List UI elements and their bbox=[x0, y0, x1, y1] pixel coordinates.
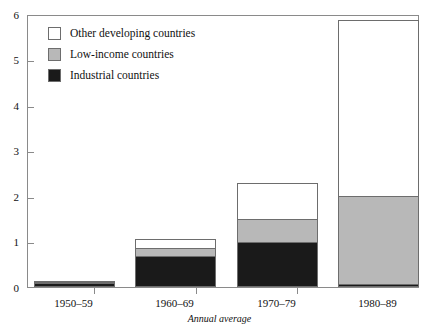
legend: Other developing countries Low-income co… bbox=[48, 23, 238, 86]
legend-item-low-income[interactable]: Low-income countries bbox=[48, 44, 238, 65]
bar-segment-other-developing-1950-59[interactable] bbox=[34, 281, 115, 282]
legend-swatch-other-developing-icon bbox=[48, 27, 61, 40]
legend-label-other-developing: Other developing countries bbox=[70, 27, 195, 40]
x-axis-tick-3 bbox=[297, 288, 298, 294]
bar-segment-other-developing-1980-89[interactable] bbox=[338, 20, 419, 196]
bar-segment-low-income-1950-59[interactable] bbox=[34, 282, 115, 283]
stacked-bar-chart: 6 5 4 3 2 1 0 bbox=[0, 0, 439, 329]
x-tick-label-1970-79: 1970–79 bbox=[236, 297, 317, 309]
bar-segment-industrial-1950-59[interactable] bbox=[34, 283, 115, 287]
x-tick-label-1950-59: 1950–59 bbox=[33, 297, 114, 309]
legend-label-industrial: Industrial countries bbox=[70, 69, 159, 82]
bar-1970-79[interactable] bbox=[237, 183, 318, 287]
bar-1950-59[interactable] bbox=[34, 282, 115, 287]
clipped-caption-fragment bbox=[36, 0, 106, 5]
x-axis-title: Annual average bbox=[0, 313, 439, 324]
bar-segment-industrial-1970-79[interactable] bbox=[237, 242, 318, 287]
bar-segment-industrial-1960-69[interactable] bbox=[135, 256, 216, 287]
bar-segment-low-income-1970-79[interactable] bbox=[237, 219, 318, 242]
y-tick-label-0: 0 bbox=[14, 283, 20, 294]
bar-1960-69[interactable] bbox=[135, 239, 216, 287]
legend-item-other-developing[interactable]: Other developing countries bbox=[48, 23, 238, 44]
bar-segment-other-developing-1960-69[interactable] bbox=[135, 239, 216, 248]
y-tick-label-5: 5 bbox=[14, 55, 20, 66]
y-tick-label-2: 2 bbox=[14, 192, 20, 203]
x-axis-tick-1 bbox=[94, 288, 95, 294]
bar-segment-low-income-1960-69[interactable] bbox=[135, 248, 216, 256]
y-tick-label-3: 3 bbox=[14, 146, 20, 157]
bar-1980-89[interactable] bbox=[338, 20, 419, 287]
bar-segment-industrial-1980-89[interactable] bbox=[338, 284, 419, 287]
y-tick-label-4: 4 bbox=[14, 101, 20, 112]
legend-item-industrial[interactable]: Industrial countries bbox=[48, 65, 238, 86]
x-axis-tick-2 bbox=[196, 288, 197, 294]
legend-swatch-industrial-icon bbox=[48, 69, 61, 82]
y-tick-label-6: 6 bbox=[14, 10, 20, 21]
x-tick-label-1980-89: 1980–89 bbox=[337, 297, 418, 309]
y-axis: 6 5 4 3 2 1 0 bbox=[0, 0, 27, 329]
legend-swatch-low-income-icon bbox=[48, 48, 61, 61]
y-tick-label-1: 1 bbox=[14, 237, 20, 248]
bar-segment-low-income-1980-89[interactable] bbox=[338, 196, 419, 284]
bar-segment-other-developing-1970-79[interactable] bbox=[237, 183, 318, 219]
x-tick-label-1960-69: 1960–69 bbox=[134, 297, 215, 309]
legend-label-low-income: Low-income countries bbox=[70, 48, 174, 61]
